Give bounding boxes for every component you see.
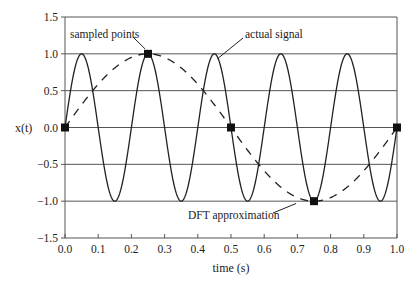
x-tick-labels: 0.00.10.20.30.40.50.60.70.80.91.0 xyxy=(58,243,405,255)
y-tick-label: −1.0 xyxy=(37,195,58,207)
annotation-actual-signal: actual signal xyxy=(245,28,303,41)
sample-marker xyxy=(61,124,69,132)
x-tick-label: 0.1 xyxy=(91,243,106,255)
x-tick-label: 0.6 xyxy=(257,243,272,255)
y-tick-label: −1.5 xyxy=(37,232,58,244)
x-tick-label: 0.7 xyxy=(290,243,305,255)
sample-marker xyxy=(227,124,235,132)
y-tick-label: 0.0 xyxy=(44,122,59,134)
x-tick-label: 1.0 xyxy=(390,243,405,255)
x-tick-label: 0.2 xyxy=(124,243,139,255)
y-tick-label: 1.0 xyxy=(44,48,59,60)
chart: 1.51.00.50.0−0.5−1.0−1.5 0.00.10.20.30.4… xyxy=(0,0,416,286)
y-tick-labels: 1.51.00.50.0−0.5−1.0−1.5 xyxy=(37,11,58,244)
annotation-dft-approximation: DFT approximation xyxy=(188,209,280,222)
x-tick-label: 0.8 xyxy=(323,243,338,255)
sample-marker xyxy=(310,197,318,205)
annotation-sampled-points: sampled points xyxy=(70,28,140,41)
sample-marker xyxy=(144,50,152,58)
y-tick-label: 1.5 xyxy=(44,11,59,23)
y-tick-label: −0.5 xyxy=(37,158,58,170)
x-tick-label: 0.3 xyxy=(157,243,172,255)
y-axis-label: x(t) xyxy=(15,121,32,135)
x-tick-label: 0.5 xyxy=(224,243,239,255)
x-tick-label: 0.9 xyxy=(357,243,372,255)
x-tick-label: 0.0 xyxy=(58,243,73,255)
sample-marker xyxy=(393,124,401,132)
x-tick-label: 0.4 xyxy=(191,243,206,255)
x-axis-label: time (s) xyxy=(213,261,250,275)
y-tick-label: 0.5 xyxy=(44,85,59,97)
